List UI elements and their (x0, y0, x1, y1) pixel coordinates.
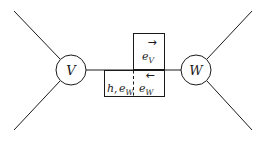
lower-left-leg (14, 81, 60, 130)
upper-left-leg (14, 11, 60, 59)
edge-label-ew-right: eW (139, 82, 155, 97)
edge-label-ew-right-subscript: W (146, 88, 155, 97)
edge-label-h: h (107, 82, 114, 95)
edge-label-ev-subscript: V (149, 56, 156, 65)
left-arrow-icon: ← (145, 69, 154, 82)
vertex-label-w: W (189, 63, 204, 78)
right-arrow-icon: → (147, 36, 156, 49)
edge-label-ew-left-subscript: W (126, 88, 135, 97)
edge-label-h-ew: h,eW (107, 82, 135, 97)
upper-right-leg (207, 11, 252, 59)
vertex-label-v: V (66, 63, 77, 78)
figure-container: V W → eV ← eW h,eW (0, 0, 266, 141)
edge-label-ev: eV (142, 50, 156, 65)
edge-label-separator: , (114, 82, 118, 95)
diagram-svg: V W → eV ← eW h,eW (0, 0, 266, 141)
lower-right-leg (207, 81, 252, 130)
